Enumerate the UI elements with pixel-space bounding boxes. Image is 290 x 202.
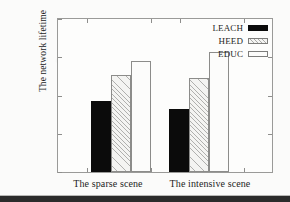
x-tick-mark-top-2 bbox=[151, 19, 152, 23]
y-tick-mark-50 bbox=[58, 134, 62, 135]
y-tick-mark-right-150 bbox=[268, 57, 272, 58]
x-group-label-intensive: The intensive scene bbox=[155, 178, 265, 189]
x-tick-mark-2 bbox=[151, 168, 152, 172]
bar-educ-sparse bbox=[131, 61, 151, 172]
plot-area: LEACH HEED EDUC bbox=[57, 18, 273, 173]
y-tick-mark-0 bbox=[58, 172, 62, 173]
legend-swatch-heed-icon bbox=[248, 38, 268, 44]
x-tick-mark-1 bbox=[87, 168, 88, 172]
bar-heed-sparse bbox=[111, 75, 131, 172]
y-tick-mark-right-50 bbox=[268, 134, 272, 135]
y-tick-mark-100 bbox=[58, 96, 62, 97]
x-tick-mark-top-1 bbox=[87, 19, 88, 23]
x-tick-mark-4 bbox=[244, 168, 245, 172]
bar-heed-intensive bbox=[189, 78, 209, 172]
legend-item-educ: EDUC bbox=[218, 48, 268, 60]
x-group-label-sparse: The sparse scene bbox=[60, 178, 156, 189]
bar-leach-intensive bbox=[169, 109, 189, 172]
legend-swatch-leach-icon bbox=[248, 25, 268, 31]
y-tick-mark-200 bbox=[58, 19, 62, 20]
page-edge-band bbox=[0, 196, 290, 202]
legend-label-leach: LEACH bbox=[213, 23, 244, 33]
y-tick-mark-right-100 bbox=[268, 96, 272, 97]
legend-item-leach: LEACH bbox=[213, 22, 269, 34]
legend-label-heed: HEED bbox=[219, 36, 243, 46]
legend-label-educ: EDUC bbox=[218, 49, 243, 59]
x-tick-mark-top-3 bbox=[180, 19, 181, 23]
y-axis-title: The network lifetime bbox=[38, 0, 48, 106]
legend-item-heed: HEED bbox=[219, 35, 268, 47]
bar-leach-sparse bbox=[91, 101, 111, 172]
legend: LEACH HEED EDUC bbox=[213, 22, 269, 60]
y-tick-mark-150 bbox=[58, 57, 62, 58]
bar-educ-intensive bbox=[209, 52, 229, 172]
figure-canvas: The network lifetime 200 150 100 50 0 Th… bbox=[0, 0, 290, 202]
legend-swatch-educ-icon bbox=[248, 51, 268, 57]
